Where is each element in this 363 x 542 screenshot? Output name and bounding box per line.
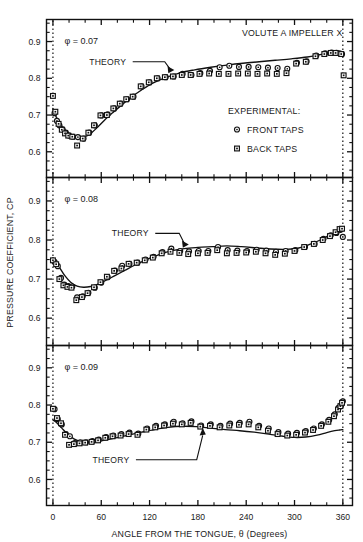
data-point-back-phi-009-5: [71, 442, 76, 447]
data-point-back-phi-008-25: [224, 251, 229, 256]
data-point-back-phi-007-28: [236, 71, 241, 76]
data-point-back-phi-007-35: [303, 59, 308, 64]
data-point-back-phi-007-34: [294, 61, 299, 66]
back-tap-dot: [56, 417, 58, 419]
data-point-back-phi-009-24: [227, 423, 232, 428]
back-tap-dot: [320, 425, 322, 427]
back-tap-dot: [172, 76, 174, 78]
back-tap-dot: [295, 434, 297, 436]
data-point-back-phi-009-33: [311, 428, 316, 433]
data-point-back-phi-007-27: [226, 71, 231, 76]
data-point-back-phi-007-0: [51, 94, 56, 99]
data-point-back-phi-008-14: [126, 261, 131, 266]
back-tap-dot: [303, 246, 305, 248]
back-tap-dot: [247, 73, 249, 75]
back-tap-dot: [274, 254, 276, 256]
back-tap-dot: [228, 425, 230, 427]
data-point-back-phi-008-24: [215, 248, 220, 253]
data-point-back-phi-009-14: [135, 432, 140, 437]
back-tap-dot: [255, 251, 257, 253]
data-point-back-phi-008-19: [168, 249, 173, 254]
data-point-back-phi-009-0: [51, 406, 56, 411]
back-tap-dot: [238, 424, 240, 426]
back-tap-dot: [112, 435, 114, 437]
xtick-label-0: 0: [51, 512, 56, 522]
data-point-back-phi-007-15: [124, 97, 129, 102]
back-tap-dot: [267, 430, 269, 432]
data-point-back-phi-009-23: [217, 425, 222, 430]
ytick-label-phi-009-0.8: 0.8: [29, 400, 41, 410]
data-point-back-phi-009-31: [294, 432, 299, 437]
legend-marker-front: [235, 127, 240, 132]
data-point-back-phi-009-8: [89, 439, 94, 444]
data-point-back-phi-007-17: [138, 84, 143, 89]
data-point-front-phi-007-28: [236, 64, 241, 69]
data-point-back-phi-009-21: [198, 424, 203, 429]
back-tap-dot: [60, 422, 62, 424]
back-tap-dot: [55, 263, 57, 265]
ytick-label-phi-008-0.8: 0.8: [29, 235, 41, 245]
xtick-label-60: 60: [96, 512, 106, 522]
back-tap-dot: [219, 427, 221, 429]
back-tap-dot: [323, 53, 325, 55]
back-tap-dot: [81, 296, 83, 298]
data-point-back-phi-007-9: [86, 130, 91, 135]
data-point-front-phi-008-39: [340, 234, 345, 239]
data-point-front-phi-007-29: [246, 64, 251, 69]
back-tap-dot: [67, 286, 69, 288]
back-tap-dot: [152, 257, 154, 259]
back-tap-dot: [341, 228, 343, 230]
back-tap-dot: [333, 415, 335, 417]
back-tap-dot: [164, 76, 166, 78]
data-point-back-phi-007-25: [207, 71, 212, 76]
front-tap-dot: [286, 68, 288, 70]
back-tap-dot: [93, 124, 95, 126]
front-tap-dot: [342, 236, 344, 238]
back-tap-dot: [88, 132, 90, 134]
back-tap-dot: [68, 444, 70, 446]
data-point-back-phi-009-35: [326, 419, 331, 424]
data-point-back-phi-008-22: [195, 251, 200, 256]
ytick-label-phi-007-0.7: 0.7: [29, 110, 41, 120]
back-tap-dot: [236, 252, 238, 254]
back-tap-dot: [67, 135, 69, 137]
data-point-back-phi-008-9: [92, 285, 97, 290]
data-point-back-phi-007-36: [313, 54, 318, 59]
back-tap-dot: [146, 429, 148, 431]
back-tap-dot: [87, 292, 89, 294]
back-tap-dot: [187, 253, 189, 255]
data-point-back-phi-007-6: [70, 134, 75, 139]
theory-leader-phi-009: [136, 435, 203, 459]
data-point-back-phi-008-12: [112, 268, 117, 273]
back-tap-dot: [128, 263, 130, 265]
back-tap-dot: [128, 433, 130, 435]
data-point-back-phi-009-17: [162, 423, 167, 428]
data-point-back-phi-008-32: [292, 249, 297, 254]
back-tap-dot: [322, 239, 324, 241]
data-point-back-phi-007-32: [274, 71, 279, 76]
back-tap-dot: [75, 299, 77, 301]
data-point-back-phi-008-2: [57, 277, 62, 282]
legend-label-0: FRONT TAPS: [247, 125, 304, 135]
data-point-back-phi-007-37: [322, 52, 327, 57]
data-point-back-phi-009-9: [96, 438, 101, 443]
back-tap-dot: [156, 77, 158, 79]
ytick-label-phi-008-0.9: 0.9: [29, 196, 41, 206]
back-tap-dot: [100, 115, 102, 117]
data-point-back-phi-007-39: [333, 51, 338, 56]
data-point-back-phi-007-19: [154, 76, 159, 81]
data-point-back-phi-009-20: [188, 420, 193, 425]
data-point-back-phi-009-36: [332, 414, 337, 419]
back-tap-dot: [55, 111, 57, 113]
front-tap-dot: [228, 65, 230, 67]
xtick-label-120: 120: [142, 512, 157, 522]
back-tap-dot: [343, 75, 345, 77]
ytick-label-phi-009-0.6: 0.6: [29, 475, 41, 485]
data-point-back-phi-007-12: [104, 113, 109, 118]
data-point-back-phi-007-29: [245, 71, 250, 76]
data-point-back-phi-007-24: [197, 71, 202, 76]
ytick-label-phi-008-0.6: 0.6: [29, 313, 41, 323]
back-tap-dot: [190, 74, 192, 76]
back-tap-dot: [84, 442, 86, 444]
xtick-label-360: 360: [336, 512, 351, 522]
